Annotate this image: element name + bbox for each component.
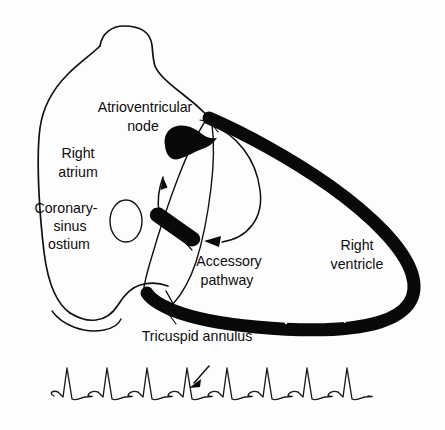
label-right-ventricle-line1: Right (340, 237, 373, 253)
coronary-sinus-ostium (110, 200, 142, 242)
label-coronary-sinus-line1: Coronary- (34, 200, 97, 216)
atrioventricular-node (165, 126, 217, 160)
label-accessory-pathway-line1: Accessory (196, 253, 262, 269)
label-coronary-sinus-line2: sinus (53, 218, 86, 234)
label-tricuspid-annulus: Tricuspid annulus (142, 328, 253, 344)
label-av-node-line1: Atrioventricular (98, 99, 193, 115)
label-right-atrium-line1: Right (61, 145, 94, 161)
ecg-rhythm-strip (51, 366, 372, 400)
label-right-ventricle-line2: ventricle (331, 256, 384, 272)
label-accessory-pathway-line2: pathway (201, 272, 255, 288)
accessory-pathway (150, 208, 200, 247)
label-right-atrium-line2: atrium (58, 164, 97, 180)
label-av-node-line2: node (127, 118, 159, 134)
wpw-anatomy-figure: Atrioventricular node Right atrium Coron… (0, 0, 445, 430)
label-coronary-sinus-line3: ostium (48, 236, 90, 252)
antegrade-conduction-arrow (158, 177, 167, 212)
